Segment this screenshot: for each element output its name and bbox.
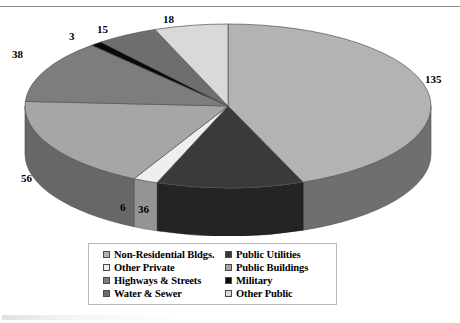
value-label-water-sewer: 15 bbox=[97, 24, 108, 35]
legend-label: Military bbox=[236, 275, 273, 286]
legend-label: Highways & Streets bbox=[114, 275, 201, 286]
value-label-military: 3 bbox=[69, 31, 75, 42]
legend-swatch-icon bbox=[103, 264, 110, 271]
pie-stage: 135 36 6 56 38 3 15 18 bbox=[0, 8, 460, 236]
chart-page: 135 36 6 56 38 3 15 18 Non-Residential B… bbox=[0, 0, 460, 323]
value-label-highways-streets: 38 bbox=[12, 49, 23, 60]
legend-label: Other Public bbox=[236, 288, 293, 299]
pie-chart: 135 36 6 56 38 3 15 18 bbox=[0, 8, 460, 236]
legend-item-other-public[interactable]: Other Public bbox=[225, 287, 335, 300]
legend-item-public-utilities[interactable]: Public Utilities bbox=[225, 248, 335, 261]
legend-swatch-icon bbox=[103, 251, 110, 258]
legend-swatch-icon bbox=[103, 277, 110, 284]
legend-label: Public Utilities bbox=[236, 249, 301, 260]
legend-item-highways-streets[interactable]: Highways & Streets bbox=[103, 274, 225, 287]
value-label-non-residential: 135 bbox=[425, 74, 442, 85]
legend-swatch-icon bbox=[225, 251, 232, 258]
chart-legend: Non-Residential Bldgs. Public Utilities … bbox=[88, 243, 337, 305]
legend-label: Other Private bbox=[114, 262, 175, 273]
pie-svg bbox=[0, 8, 460, 236]
legend-label: Water & Sewer bbox=[114, 288, 182, 299]
legend-item-water-sewer[interactable]: Water & Sewer bbox=[103, 287, 225, 300]
legend-swatch-icon bbox=[103, 290, 110, 297]
legend-swatch-icon bbox=[225, 290, 232, 297]
top-divider bbox=[0, 6, 460, 7]
legend-grid: Non-Residential Bldgs. Public Utilities … bbox=[103, 248, 335, 300]
value-label-public-buildings: 56 bbox=[21, 173, 32, 184]
pie-slice-side bbox=[157, 182, 303, 236]
page-bottom-artifact bbox=[2, 315, 172, 320]
value-label-public-utilities: 36 bbox=[138, 204, 149, 215]
legend-item-non-residential-bldgs[interactable]: Non-Residential Bldgs. bbox=[103, 248, 225, 261]
legend-label: Public Buildings bbox=[236, 262, 308, 273]
legend-swatch-icon bbox=[225, 264, 232, 271]
value-label-other-private: 6 bbox=[120, 202, 126, 213]
legend-item-military[interactable]: Military bbox=[225, 274, 335, 287]
legend-item-public-buildings[interactable]: Public Buildings bbox=[225, 261, 335, 274]
legend-item-other-private[interactable]: Other Private bbox=[103, 261, 225, 274]
legend-label: Non-Residential Bldgs. bbox=[114, 249, 214, 260]
value-label-other-public: 18 bbox=[163, 14, 174, 25]
pie-top-faces bbox=[25, 24, 431, 188]
legend-swatch-icon bbox=[225, 277, 232, 284]
